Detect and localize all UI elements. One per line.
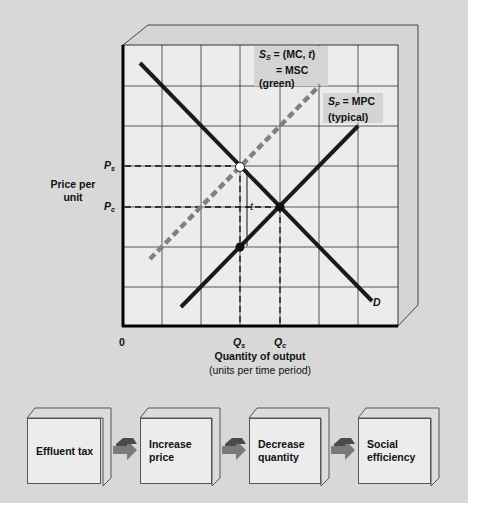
flow-step-effluent-tax: Effluent tax: [27, 408, 103, 476]
flow-step-social-efficiency: Social efficiency: [358, 408, 431, 476]
arrow-icon: [331, 438, 355, 460]
arrow-icon: [222, 438, 246, 460]
flow-step-decrease-quantity: Decrease quantity: [249, 408, 321, 476]
arrow-icon: [113, 438, 137, 460]
flow-step-increase-price: Increase price: [140, 408, 212, 476]
